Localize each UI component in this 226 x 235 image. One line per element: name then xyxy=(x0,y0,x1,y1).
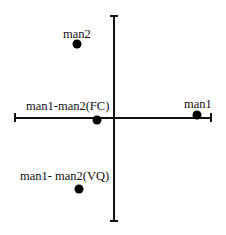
label-man1-man2-fc: man1-man2(FC) xyxy=(26,100,109,113)
x-axis-right-end-tick xyxy=(210,113,212,122)
label-man1-man2-vq: man1- man2(VQ) xyxy=(20,170,109,183)
point-man1 xyxy=(193,111,202,120)
label-man2: man2 xyxy=(63,28,91,41)
label-man1: man1 xyxy=(184,98,212,111)
x-axis-left-end-tick xyxy=(14,113,16,122)
y-axis xyxy=(113,15,115,221)
y-axis-top-end-tick xyxy=(110,15,118,17)
y-axis-bottom-end-tick xyxy=(110,220,118,222)
point-man1-man2-fc xyxy=(93,116,102,125)
point-man1-man2-vq xyxy=(75,185,84,194)
